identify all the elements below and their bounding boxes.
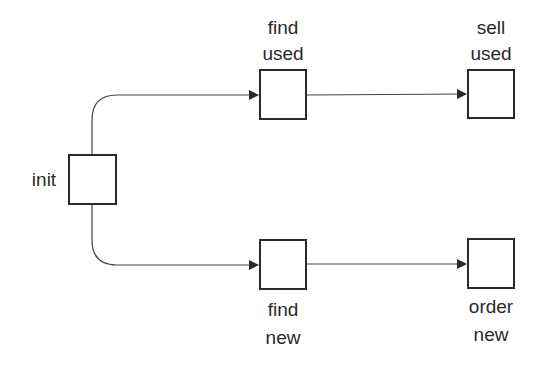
edge-init-to-find-used: [92, 95, 258, 154]
node-sell-used[interactable]: [467, 69, 515, 119]
node-label-sell-used-line2: used: [460, 42, 522, 66]
node-find-used[interactable]: [259, 69, 307, 120]
edge-init-to-find-new: [92, 205, 258, 265]
edge-find-used-to-sell-used: [306, 94, 466, 95]
node-label-find-used-line2: used: [252, 42, 314, 66]
node-label-find-new-line2: new: [252, 326, 314, 350]
node-label-sell-used-line1: sell: [460, 16, 522, 40]
node-find-new[interactable]: [259, 239, 307, 290]
node-init[interactable]: [68, 154, 117, 205]
node-label-order-new-line2: new: [458, 323, 524, 347]
node-label-find-used-line1: find: [252, 16, 314, 40]
node-label-init: init: [22, 168, 66, 192]
node-label-find-new-line1: find: [252, 298, 314, 322]
node-label-order-new-line1: order: [458, 295, 524, 319]
node-order-new[interactable]: [467, 238, 515, 289]
